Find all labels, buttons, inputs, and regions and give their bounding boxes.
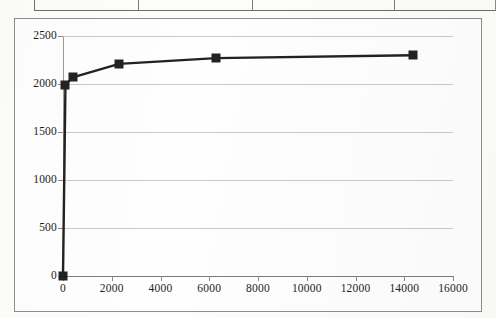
x-tick-8000 (258, 276, 259, 281)
chart-frame: 05001000150020002500 0200040006000800010… (14, 18, 482, 312)
x-tick-12000 (356, 276, 357, 281)
x-tick-16000 (453, 276, 454, 281)
x-tick-label-10000: 10000 (292, 283, 322, 295)
x-tick-label-4000: 4000 (149, 283, 173, 295)
data-point-marker (59, 272, 68, 281)
x-tick-label-2000: 2000 (100, 283, 124, 295)
table-cell (394, 0, 496, 11)
y-tick-label-0: 0 (51, 270, 57, 282)
series-line (63, 36, 453, 276)
page-bottom-edge (0, 318, 496, 323)
table-cell (252, 0, 394, 11)
data-point-marker (61, 80, 70, 89)
y-tick-label-500: 500 (39, 222, 57, 234)
x-tick-label-12000: 12000 (341, 283, 371, 295)
plot-area: 05001000150020002500 0200040006000800010… (63, 36, 453, 276)
x-tick-10000 (307, 276, 308, 281)
x-tick-4000 (161, 276, 162, 281)
x-tick-label-16000: 16000 (438, 283, 468, 295)
data-point-marker (115, 59, 124, 68)
y-tick-label-1000: 1000 (33, 174, 57, 186)
x-tick-14000 (404, 276, 405, 281)
data-point-marker (68, 73, 77, 82)
x-tick-label-0: 0 (60, 283, 66, 295)
data-point-marker (212, 54, 221, 63)
page-root: 05001000150020002500 0200040006000800010… (0, 0, 496, 323)
y-tick-label-2000: 2000 (33, 78, 57, 90)
x-tick-label-6000: 6000 (197, 283, 221, 295)
table-cell (34, 0, 138, 11)
x-tick-label-8000: 8000 (246, 283, 270, 295)
y-tick-label-1500: 1500 (33, 126, 57, 138)
data-point-marker (408, 51, 417, 60)
x-tick-2000 (112, 276, 113, 281)
table-cell (138, 0, 252, 11)
partial-table-fragment (34, 0, 496, 11)
y-tick-label-2500: 2500 (33, 30, 57, 42)
x-tick-6000 (209, 276, 210, 281)
x-tick-label-14000: 14000 (389, 283, 419, 295)
